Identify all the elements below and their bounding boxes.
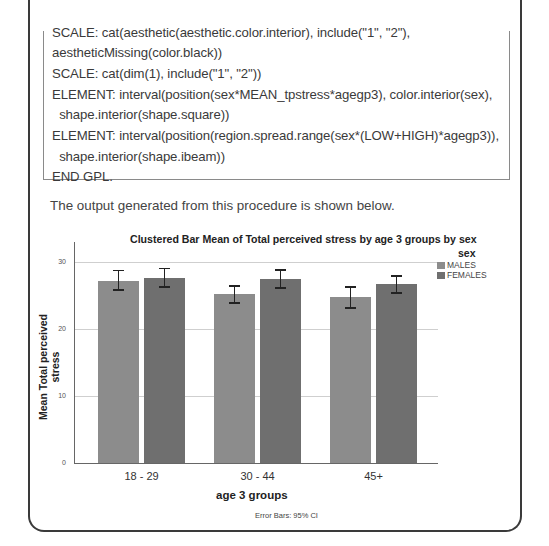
code-line: shape.interior(shape.ibeam)) [52,149,225,164]
code-line: SCALE: cat(dim(1), include("1", "2")) [52,66,261,81]
plot-area: 0102030 [74,242,438,464]
legend-swatch-males [437,262,445,269]
bar-females-0 [144,278,185,463]
y-tick-label: 0 [46,459,66,466]
x-axis-line [74,463,438,464]
gridline [75,262,438,263]
legend-swatch-females [437,272,445,279]
bar-females-1 [260,279,301,463]
legend-label-males: MALES [447,260,476,270]
intro-text: The output generated from this procedure… [50,198,395,213]
error-bar [118,271,120,290]
error-bar-cap [391,292,402,294]
code-line: ELEMENT: interval(position(sex*MEAN_tpst… [52,87,492,102]
error-bar-cap [159,286,170,288]
legend-item-females: FEMALES [437,270,487,280]
code-line: END GPL. [52,169,113,184]
bar-males-0 [98,281,139,463]
x-axis-label: age 3 groups [216,489,288,501]
code-line: SCALE: cat(aesthetic(aesthetic.color.int… [52,25,410,40]
error-bar-cap [275,287,286,289]
error-bar [350,287,352,308]
legend-item-males: MALES [437,260,476,270]
code-line: ELEMENT: interval(position(region.spread… [52,128,499,143]
x-tick-label: 18 - 29 [112,470,172,482]
y-axis-line [74,242,75,464]
error-bar-cap [159,268,170,270]
code-line: shape.interior(shape.square)) [52,107,229,122]
y-axis-label: Mean Total perceived stress [37,307,61,427]
code-line: aestheticMissing(color.black)) [52,45,222,60]
bar-males-2 [330,297,371,463]
legend-label-females: FEMALES [447,270,487,280]
y-tick-label: 30 [46,258,66,265]
error-bar-cap [113,270,124,272]
error-bar-cap [275,269,286,271]
error-bar [234,286,236,303]
error-bar-cap [391,275,402,277]
error-bar [396,276,398,293]
error-bar-cap [345,286,356,288]
error-bar-cap [113,289,124,291]
bar-females-2 [376,284,417,463]
error-bars-note: Error Bars: 95% CI [255,511,318,520]
error-bar [280,270,282,288]
legend-title: sex [458,247,476,259]
bar-males-1 [214,294,255,463]
error-bar-cap [229,302,240,304]
error-bar-cap [229,285,240,287]
x-tick-label: 30 - 44 [228,470,288,482]
error-bar-cap [345,307,356,309]
error-bar [164,269,166,287]
x-tick-label: 45+ [344,470,404,482]
